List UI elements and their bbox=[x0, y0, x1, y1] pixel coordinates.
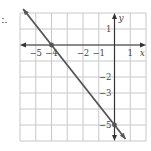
y-tick-label: 1 bbox=[106, 24, 111, 34]
intercept-point bbox=[112, 123, 117, 128]
y-tick-label: −2 bbox=[99, 72, 112, 82]
grid-lines bbox=[20, 13, 146, 141]
coordinate-plane-chart: −5−4−2−111−2−3−5 x y bbox=[0, 0, 151, 151]
x-tick-label: 1 bbox=[128, 48, 133, 58]
y-axis-label: y bbox=[118, 13, 125, 23]
y-tick-label: −5 bbox=[99, 120, 112, 130]
x-tick-label: −5 bbox=[29, 48, 42, 58]
x-tick-label: −1 bbox=[92, 48, 105, 58]
x-tick-label: −2 bbox=[77, 48, 90, 58]
x-axis-label: x bbox=[140, 48, 145, 58]
y-tick-label: −3 bbox=[99, 88, 112, 98]
intercept-point bbox=[49, 43, 54, 48]
